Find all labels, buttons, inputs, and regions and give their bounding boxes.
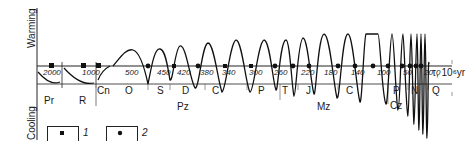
- period-label: Q: [432, 86, 440, 96]
- period-label: Cn: [97, 86, 110, 96]
- period-label: T: [282, 86, 288, 96]
- y-axis-warming-label: Warming: [26, 8, 37, 48]
- era-label: Pz: [177, 102, 189, 112]
- tick-label: 500: [125, 69, 138, 77]
- tick-label: 450: [157, 69, 170, 77]
- y-axis-cooling-label: Cooling: [26, 106, 37, 140]
- period-label: R: [79, 96, 86, 106]
- tick-label: 340: [222, 69, 235, 77]
- legend-number-1: 1: [83, 127, 89, 138]
- tick-label: 220: [301, 69, 314, 77]
- period-label: C: [346, 86, 353, 96]
- tick-label: 180: [324, 69, 337, 77]
- period-label: J: [306, 86, 311, 96]
- tick-label: 50: [403, 69, 412, 77]
- period-label: Pr: [44, 96, 54, 106]
- tick-label: 100: [377, 69, 390, 77]
- period-label: N: [411, 86, 418, 96]
- tick-label: 300: [249, 69, 262, 77]
- legend-box-1: [47, 126, 79, 141]
- tick-label: 0: [436, 69, 440, 77]
- era-label: Cz: [390, 101, 402, 111]
- legend-number-2: 2: [142, 127, 148, 138]
- legend-box-2: [106, 126, 138, 141]
- period-label: P: [258, 86, 265, 96]
- tick-label: 420: [177, 69, 190, 77]
- period-label: S: [157, 86, 164, 96]
- period-label: D: [182, 86, 189, 96]
- period-label: O: [125, 86, 133, 96]
- era-label: Mz: [317, 102, 330, 112]
- tick-label: 380: [200, 69, 213, 77]
- tick-label: 2000: [43, 69, 61, 77]
- period-label: C: [212, 86, 219, 96]
- tick-label: 260: [274, 69, 287, 77]
- tick-label: 1000: [82, 69, 100, 77]
- period-label: P: [393, 86, 400, 96]
- tick-label: 20: [424, 69, 433, 77]
- tick-label: 140: [351, 69, 364, 77]
